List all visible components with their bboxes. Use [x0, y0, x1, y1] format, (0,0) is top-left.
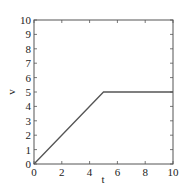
- x-tick-label: 4: [87, 166, 93, 178]
- y-tick-label: 4: [26, 100, 32, 112]
- y-tick-label: 7: [26, 57, 32, 69]
- data-line: [34, 92, 173, 164]
- x-tick-label: 6: [115, 166, 121, 178]
- y-axis-label: v: [5, 89, 17, 95]
- y-tick-label: 3: [26, 115, 32, 127]
- y-tick-label: 5: [26, 86, 32, 98]
- x-tick-label: 8: [142, 166, 148, 178]
- x-tick-label: 10: [168, 166, 180, 178]
- line-chart: 012345678910 0246810 t v: [0, 0, 187, 189]
- y-tick-label: 6: [26, 72, 32, 84]
- y-tick-label: 9: [26, 28, 32, 40]
- y-tick-label: 1: [26, 144, 32, 156]
- x-tick-label: 0: [31, 166, 37, 178]
- x-axis-label: t: [101, 173, 104, 185]
- x-axis-ticks: 0246810: [31, 20, 179, 178]
- y-tick-label: 8: [26, 43, 32, 55]
- x-tick-label: 2: [59, 166, 65, 178]
- y-tick-label: 10: [20, 14, 32, 26]
- y-tick-label: 2: [26, 129, 32, 141]
